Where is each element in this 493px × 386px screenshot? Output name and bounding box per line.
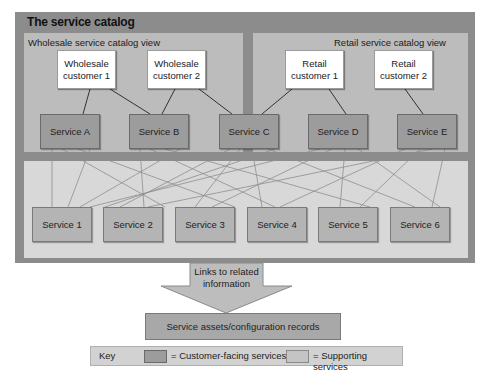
service-assets-box: Service assets/configuration records [145, 313, 341, 340]
catalog-title: The service catalog [27, 15, 135, 29]
service-6: Service 6 [390, 207, 450, 242]
wholesale-customer-2: Wholesalecustomer 2 [147, 50, 206, 89]
arrow-line2: information [203, 278, 250, 289]
supporting-legend: = Supporting services [313, 350, 402, 372]
key-label: Key [99, 350, 115, 361]
service-c: Service C [219, 114, 279, 149]
service-2: Service 2 [103, 207, 163, 242]
service-5: Service 5 [318, 207, 378, 242]
customer-line2: customer 1 [291, 70, 338, 81]
retail-customer-2: Retailcustomer 2 [374, 50, 433, 89]
legend-key: Key = Customer-facing services = Support… [90, 346, 403, 366]
service-3: Service 3 [175, 207, 235, 242]
customer-facing-swatch [144, 350, 167, 363]
service-e: Service E [397, 114, 457, 149]
retail-view-label: Retail service catalog view [334, 37, 446, 48]
wholesale-view-label: Wholesale service catalog view [28, 37, 160, 48]
wholesale-customer-1: Wholesalecustomer 1 [57, 50, 116, 89]
service-b: Service B [129, 114, 189, 149]
customer-line1: Wholesale [154, 58, 198, 69]
service-1: Service 1 [32, 207, 92, 242]
service-4: Service 4 [247, 207, 307, 242]
customer-facing-legend: = Customer-facing services [171, 350, 286, 361]
customer-line2: customer 2 [153, 70, 200, 81]
customer-line1: Wholesale [64, 58, 108, 69]
service-a: Service A [40, 114, 100, 149]
service-d: Service D [308, 114, 368, 149]
customer-line1: Retail [391, 58, 415, 69]
retail-customer-1: Retailcustomer 1 [285, 50, 344, 89]
customer-line2: customer 1 [63, 70, 110, 81]
customer-line2: customer 2 [380, 70, 427, 81]
arrow-line1: Links to related [194, 266, 258, 277]
links-arrow-label: Links to related information [190, 266, 263, 290]
supporting-swatch [286, 350, 309, 363]
customer-line1: Retail [302, 58, 326, 69]
